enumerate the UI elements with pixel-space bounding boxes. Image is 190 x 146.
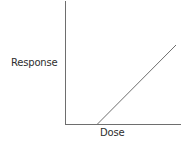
y-axis-label: Response: [11, 57, 57, 68]
x-axis-label: Dose: [100, 127, 124, 138]
dose-response-chart: Response Dose: [0, 0, 190, 146]
response-line: [97, 45, 176, 125]
chart-plot-area: [0, 0, 190, 146]
